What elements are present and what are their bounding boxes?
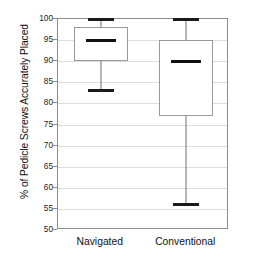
y-axis-tick-label: 90 [31,56,53,64]
max-whisker-cap [173,18,199,21]
upper-whisker-line [186,19,187,40]
box-plot-navigated [61,19,141,228]
box-plot-conventional [146,19,226,228]
interquartile-box [74,27,128,61]
interquartile-box [159,40,213,116]
min-whisker-cap [88,89,114,92]
y-axis-tick-label: 70 [31,141,53,149]
y-axis-tick-label: 65 [31,162,53,170]
y-axis-tick-label: 55 [31,204,53,212]
y-axis-tick-label: 100 [31,14,53,22]
lower-whisker-line [100,61,101,91]
min-whisker-cap [173,203,199,206]
max-whisker-cap [88,18,114,21]
y-axis-tick-label: 80 [31,98,53,106]
median-line [171,60,201,63]
y-axis-tick-label: 85 [31,77,53,85]
y-axis-tick-label: 60 [31,183,53,191]
lower-whisker-line [186,116,187,205]
y-axis-tick-label: 50 [31,225,53,233]
box-plot-chart: % of Pedicle Screws Accurately Placed 10… [0,0,254,269]
x-axis-label-conventional: Conventional [135,236,235,247]
y-axis-tick-label: 95 [31,35,53,43]
y-axis-tick-mark [53,229,57,230]
plot-area [57,18,228,229]
y-axis-title: % of Pedicle Screws Accurately Placed [19,2,30,222]
y-axis-tick-label: 75 [31,120,53,128]
median-line [86,39,116,42]
